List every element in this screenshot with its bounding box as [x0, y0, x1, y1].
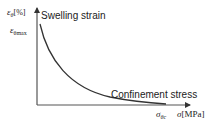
confinement-stress-label: Confinement stress — [111, 89, 197, 100]
swelling-strain-label: Swelling strain — [41, 10, 105, 21]
y-max-label: εθmax — [10, 25, 27, 36]
x-axis-label: σ[MPa] — [177, 109, 204, 119]
swelling-diagram: εθ[%] εθmax Swelling strain Confinement … — [0, 0, 219, 126]
y-axis-label: εθ[%] — [7, 7, 26, 18]
x-critical-label: σθc — [156, 109, 166, 120]
